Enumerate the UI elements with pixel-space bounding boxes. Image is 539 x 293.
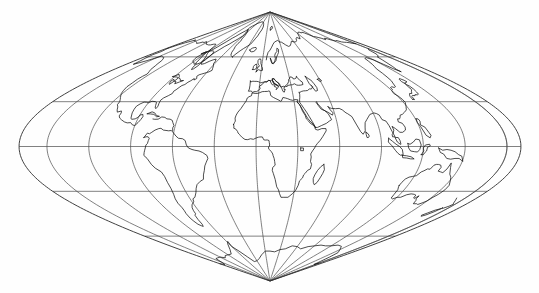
world-map-figure: [0, 0, 539, 293]
world-map-svg: [0, 0, 539, 293]
